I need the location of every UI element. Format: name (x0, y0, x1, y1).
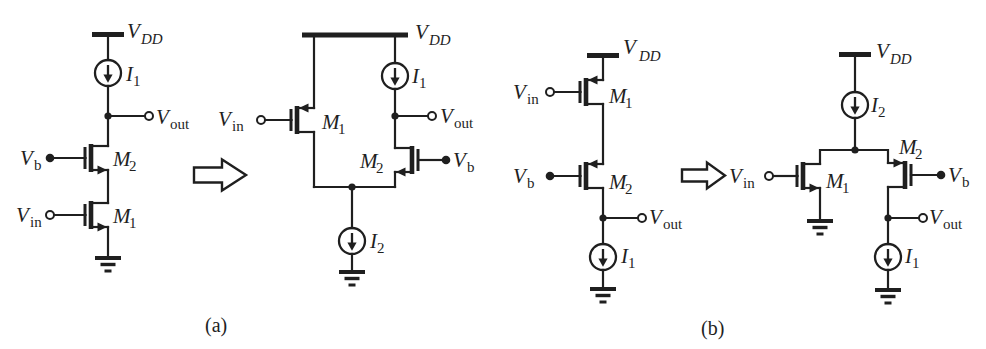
label-vout: V (440, 104, 455, 128)
label-vdd-sub: DD (638, 48, 661, 64)
vout-terminal (919, 214, 927, 222)
current-source-i1-icon (382, 63, 408, 89)
label-vout-sub: out (943, 216, 963, 232)
current-source-i1-icon (95, 60, 121, 86)
ground-icon (590, 289, 616, 302)
label-vdd: V (623, 35, 638, 59)
label-i2-sub: 2 (878, 104, 886, 120)
label-vin-sub: in (30, 214, 42, 230)
label-vb-sub: b (34, 157, 42, 173)
label-vout-sub: out (454, 115, 474, 131)
node-dot (884, 214, 891, 221)
ground-icon (339, 272, 365, 285)
label-i1-sub: 1 (912, 255, 920, 271)
vout-terminal (638, 214, 646, 222)
label-vout-sub: out (170, 116, 190, 132)
vout-terminal (145, 112, 153, 120)
nmos-m2-icon (395, 146, 418, 176)
node-dot (391, 112, 398, 119)
label-m2-sub: 2 (376, 160, 384, 176)
pmos-m1-icon (580, 76, 603, 106)
vin-terminal (257, 116, 265, 124)
label-i2-sub: 2 (377, 240, 385, 256)
nmos-m1-icon (85, 201, 108, 231)
label-vdd-sub: DD (428, 32, 451, 48)
nmos-m1-icon (797, 162, 820, 192)
label-i1-sub: 1 (133, 73, 141, 89)
label-i1-sub: 1 (628, 255, 636, 271)
wire (820, 150, 855, 164)
current-source-i2-icon (842, 92, 868, 118)
label-m1-sub: 1 (625, 95, 633, 111)
label-vin: V (218, 107, 233, 131)
node-dot (599, 214, 606, 221)
vout-terminal (428, 112, 436, 120)
label-vdd-sub: DD (140, 31, 163, 47)
vb-terminal (937, 171, 946, 180)
label-vout: V (649, 205, 664, 229)
block-arrow-right-icon (194, 160, 246, 191)
circuit-4-folded-cascode: V DD I 2 M 2 V in M 1 V b V out I 1 (729, 39, 970, 303)
pmos-m2-icon (580, 160, 603, 190)
vb-terminal (546, 172, 555, 181)
label-vout-sub: out (663, 216, 683, 232)
label-vb: V (453, 148, 468, 172)
label-vin-sub: in (232, 118, 244, 134)
label-vb-sub: b (527, 175, 535, 191)
label-vin-sub: in (743, 175, 755, 191)
folded-cascode-figure: V DD I 1 V out V b M 2 V in M 1 (a) (0, 0, 986, 349)
label-vdd: V (876, 39, 891, 63)
ground-icon (95, 258, 121, 271)
schematic-canvas: V DD I 1 V out V b M 2 V in M 1 (a) (0, 0, 986, 349)
label-m1-sub: 1 (129, 215, 137, 231)
label-m2-sub: 2 (625, 181, 633, 197)
label-vin: V (729, 164, 744, 188)
label-m2-sub: 2 (129, 158, 137, 174)
label-m1-sub: 1 (842, 180, 850, 196)
node-dot (104, 112, 111, 119)
label-vdd: V (415, 20, 430, 44)
vb-terminal (46, 154, 55, 163)
current-source-i2-icon (339, 228, 365, 254)
vin-terminal (46, 211, 54, 219)
label-i1-sub: 1 (419, 75, 427, 91)
current-source-i1-icon (590, 244, 616, 270)
label-m2-sub: 2 (915, 146, 923, 162)
vin-terminal (765, 172, 773, 180)
ground-icon (875, 290, 901, 303)
vin-terminal (546, 88, 554, 96)
nmos-m2-icon (85, 144, 108, 174)
label-vb: V (20, 146, 35, 170)
block-arrow-right-icon (682, 163, 725, 189)
circuit-3-telescopic-cascode-pmos: V DD V in M 1 V b M 2 V out I 1 (513, 35, 683, 302)
pmos-m1-icon (291, 104, 314, 134)
label-vin-sub: in (527, 91, 539, 107)
label-vout: V (156, 105, 171, 129)
node-dot (348, 183, 355, 190)
pmos-m2-icon (888, 159, 911, 189)
circuit-1-telescopic-cascode: V DD I 1 V out V b M 2 V in M 1 (16, 19, 190, 271)
label-vout: V (929, 205, 944, 229)
caption-b: (b) (701, 317, 724, 340)
label-vdd-sub: DD (889, 51, 912, 67)
vb-terminal (442, 156, 451, 165)
node-dot (851, 146, 858, 153)
label-vin: V (16, 203, 31, 227)
wire (855, 150, 888, 163)
label-vb: V (948, 163, 963, 187)
ground-icon (807, 221, 833, 234)
label-vb: V (513, 164, 528, 188)
current-source-i1-icon (875, 244, 901, 270)
label-vb-sub: b (467, 159, 475, 175)
circuit-2-folded-cascode: V DD I 1 V out V in M 1 M 2 V b I 2 (218, 20, 475, 285)
caption-a: (a) (205, 314, 227, 337)
label-vdd: V (127, 19, 142, 43)
label-vb-sub: b (962, 174, 970, 190)
label-m1-sub: 1 (338, 121, 346, 137)
label-vin: V (513, 80, 528, 104)
